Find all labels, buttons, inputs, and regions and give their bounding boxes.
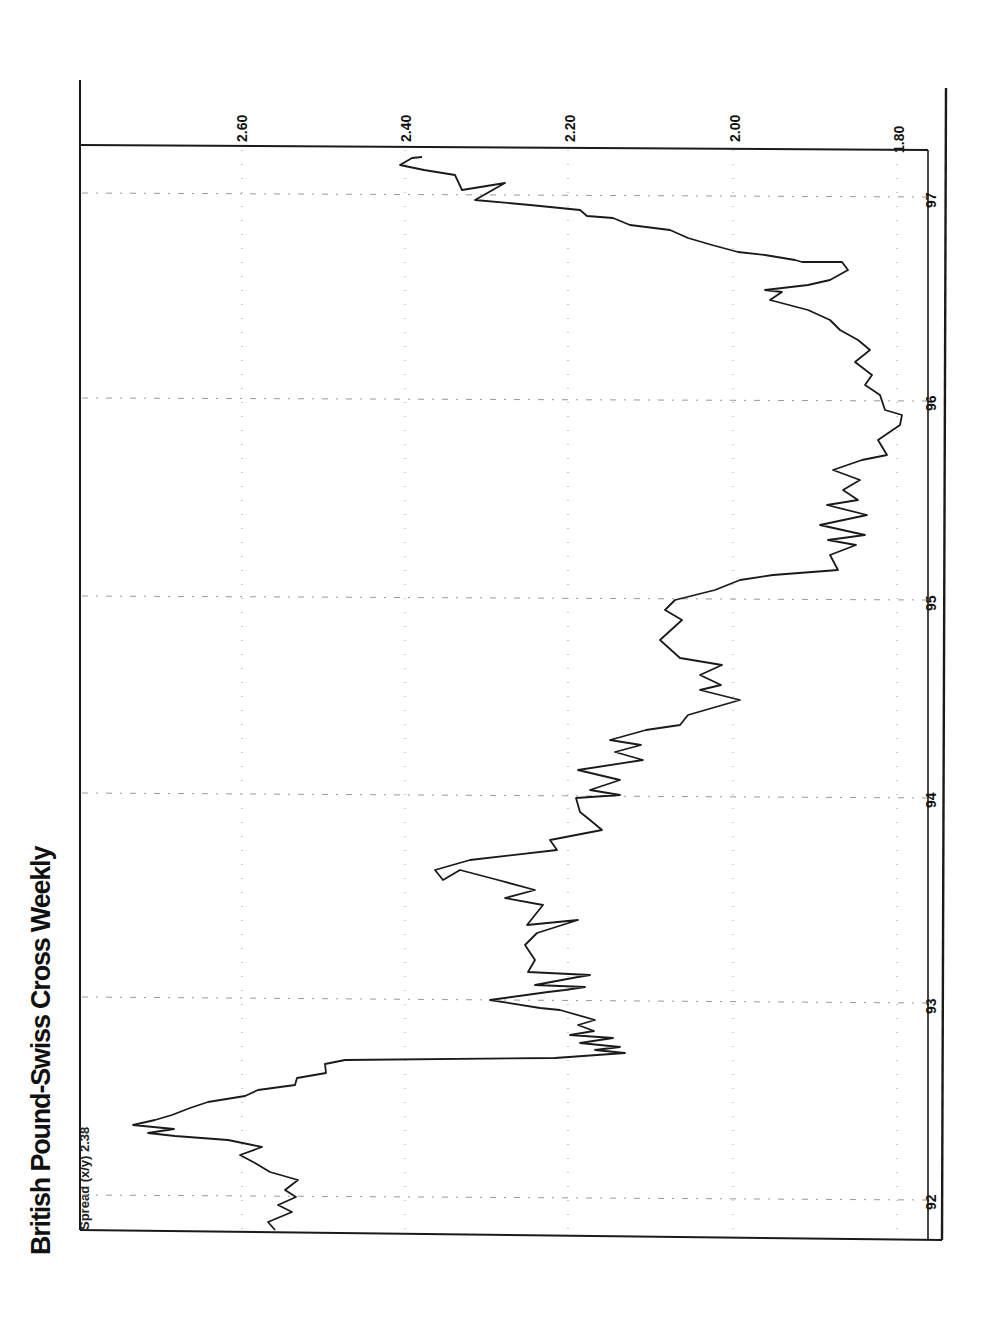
grid-lines: [82, 150, 928, 1230]
plot-frame: [80, 80, 946, 1240]
chart-plot-area: [0, 0, 989, 1321]
price-line: [133, 157, 902, 1230]
